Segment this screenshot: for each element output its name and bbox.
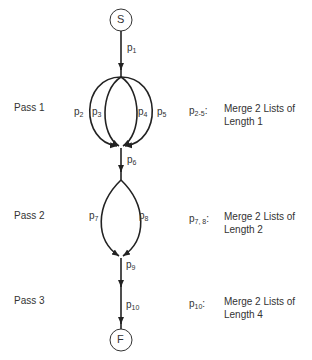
- edge-p3: [105, 77, 121, 146]
- edge-label-p2: p2: [74, 106, 83, 118]
- pass-1-key: p2-5:: [189, 105, 207, 117]
- edge-label-p7: p7: [89, 210, 98, 222]
- edge-label-p8: p8: [139, 210, 148, 222]
- edge-label-p3: p3: [92, 106, 101, 118]
- edge-p7: [101, 180, 121, 256]
- edge-label-p1: p1: [127, 42, 136, 54]
- start-node-label: S: [117, 13, 124, 25]
- pass-2-key: p7, 8:: [189, 213, 209, 225]
- edge-label-p10: p10: [126, 299, 139, 311]
- edge-label-p6: p6: [127, 154, 136, 166]
- pass-1-description: Merge 2 Lists ofLength 1: [224, 102, 295, 128]
- edge-p4: [121, 77, 137, 146]
- pass-3-label: Pass 3: [14, 295, 45, 306]
- edge-label-p5: p5: [157, 106, 166, 118]
- edge-label-p4: p4: [138, 106, 147, 118]
- pass-2-description: Merge 2 Lists ofLength 2: [224, 210, 295, 236]
- edge-p8: [121, 180, 141, 256]
- pass-3-key: p10:: [189, 298, 205, 310]
- pass-2-label: Pass 2: [14, 210, 45, 221]
- pass-1-label: Pass 1: [14, 102, 45, 113]
- pass-3-description: Merge 2 Lists ofLength 4: [224, 295, 295, 321]
- edge-label-p9: p9: [126, 259, 135, 271]
- finish-node-label: F: [117, 333, 124, 345]
